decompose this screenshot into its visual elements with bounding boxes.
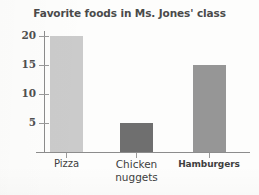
plot-area: 20 15 10 5 Pizza Chicken nuggets Hamburg… [0,0,259,195]
y-tick-mark-20 [39,36,49,37]
y-tick-label-10: 10 [0,88,36,99]
x-axis-line [36,152,250,153]
y-tick-label-20: 20 [0,30,36,41]
y-axis-line [44,31,45,153]
bar-chicken-nuggets [120,123,153,152]
y-tick-mark-10 [39,94,49,95]
bar-pizza [50,36,83,153]
y-tick-label-5: 5 [0,117,36,128]
x-axis-label-pizza-line1: Pizza [36,158,97,171]
x-axis-label-hamburgers: Hamburgers [172,158,246,171]
bar-hamburgers [193,65,226,152]
x-axis-label-chicken-nuggets-line2: nuggets [104,171,169,184]
x-axis-label-chicken-nuggets-line1: Chicken [104,158,169,171]
y-tick-mark-15 [39,65,49,66]
bar-chart-figure: Favorite foods in Ms. Jones' class 20 15… [0,0,259,195]
x-axis-label-chicken-nuggets: Chicken nuggets [104,158,169,183]
x-axis-label-hamburgers-line1: Hamburgers [172,158,246,171]
y-tick-mark-5 [39,123,49,124]
x-axis-label-pizza: Pizza [36,158,97,171]
y-tick-label-15: 15 [0,59,36,70]
